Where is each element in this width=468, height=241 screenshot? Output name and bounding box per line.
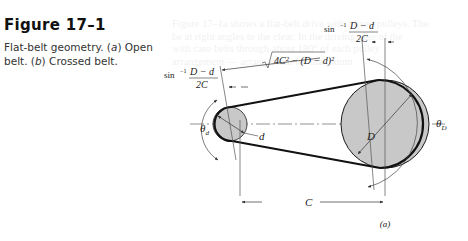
D-label: D xyxy=(366,130,375,142)
sqrt-expr: 4C² − (D − d)² xyxy=(274,55,335,67)
sqrt-label: 4C² − (D − d)² xyxy=(262,52,335,68)
d-label: d xyxy=(259,130,265,142)
sin-den: 2C xyxy=(356,33,368,44)
sin-exp: −1 xyxy=(340,22,346,28)
sin-left-label: sin −1 D − d 2C xyxy=(164,66,218,90)
d-leader xyxy=(244,133,258,136)
sin-num: D − d xyxy=(189,66,215,77)
sin-num: D − d xyxy=(349,20,375,31)
subfigure-label: (a) xyxy=(380,219,391,229)
theta-D-label: θD xyxy=(436,117,446,132)
C-label: C xyxy=(305,196,313,208)
sin-exp: −1 xyxy=(180,68,186,74)
sin-den: 2C xyxy=(196,79,208,90)
sin-text: sin xyxy=(164,70,175,80)
sin-text: sin xyxy=(324,24,335,34)
sin-right-label: sin −1 D − d 2C xyxy=(324,20,378,44)
open-belt-diagram: sin −1 D − d 2C sin −1 D − d 2C 4C² − (D… xyxy=(0,0,468,241)
